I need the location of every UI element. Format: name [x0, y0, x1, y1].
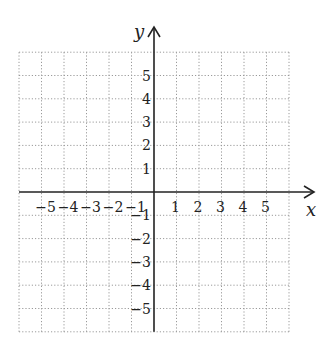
x-tick-label: 2 [194, 199, 203, 215]
x-tick-label: 5 [261, 199, 270, 215]
y-axis-label: y [133, 21, 145, 42]
x-tick-label: −4 [58, 199, 79, 215]
x-tick-label: 1 [171, 199, 180, 215]
x-axis-label: x [306, 199, 316, 220]
x-tick-label: 3 [216, 199, 225, 215]
y-tick-label: −2 [130, 231, 151, 247]
y-tick-label: −5 [130, 301, 151, 317]
y-tick-label: 2 [142, 137, 151, 153]
x-tick-label: −3 [80, 199, 101, 215]
x-tick-labels: −5−4−3−2−112345 [35, 199, 270, 215]
y-tick-label: 3 [142, 114, 151, 130]
x-tick-label: 4 [239, 199, 248, 215]
x-tick-label: −5 [35, 199, 56, 215]
y-tick-label: 4 [142, 91, 151, 107]
x-tick-label: −2 [103, 199, 124, 215]
y-tick-label: −4 [130, 277, 151, 293]
y-tick-label: 1 [142, 161, 151, 177]
y-tick-label: −1 [130, 207, 151, 223]
y-tick-label: 5 [142, 68, 151, 84]
coordinate-plane: −5−4−3−2−112345 54321−1−2−3−4−5 x y [0, 0, 334, 350]
y-tick-label: −3 [130, 254, 151, 270]
